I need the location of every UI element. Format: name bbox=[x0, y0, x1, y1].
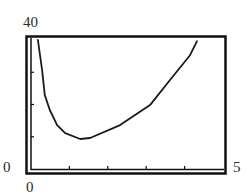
x-max-label: 5 bbox=[233, 160, 241, 175]
y-max-label: 40 bbox=[23, 15, 38, 30]
data-curve bbox=[38, 40, 197, 139]
plot-frame bbox=[27, 37, 226, 174]
y-min-label: 0 bbox=[3, 160, 11, 175]
x-min-label: 0 bbox=[26, 180, 34, 195]
